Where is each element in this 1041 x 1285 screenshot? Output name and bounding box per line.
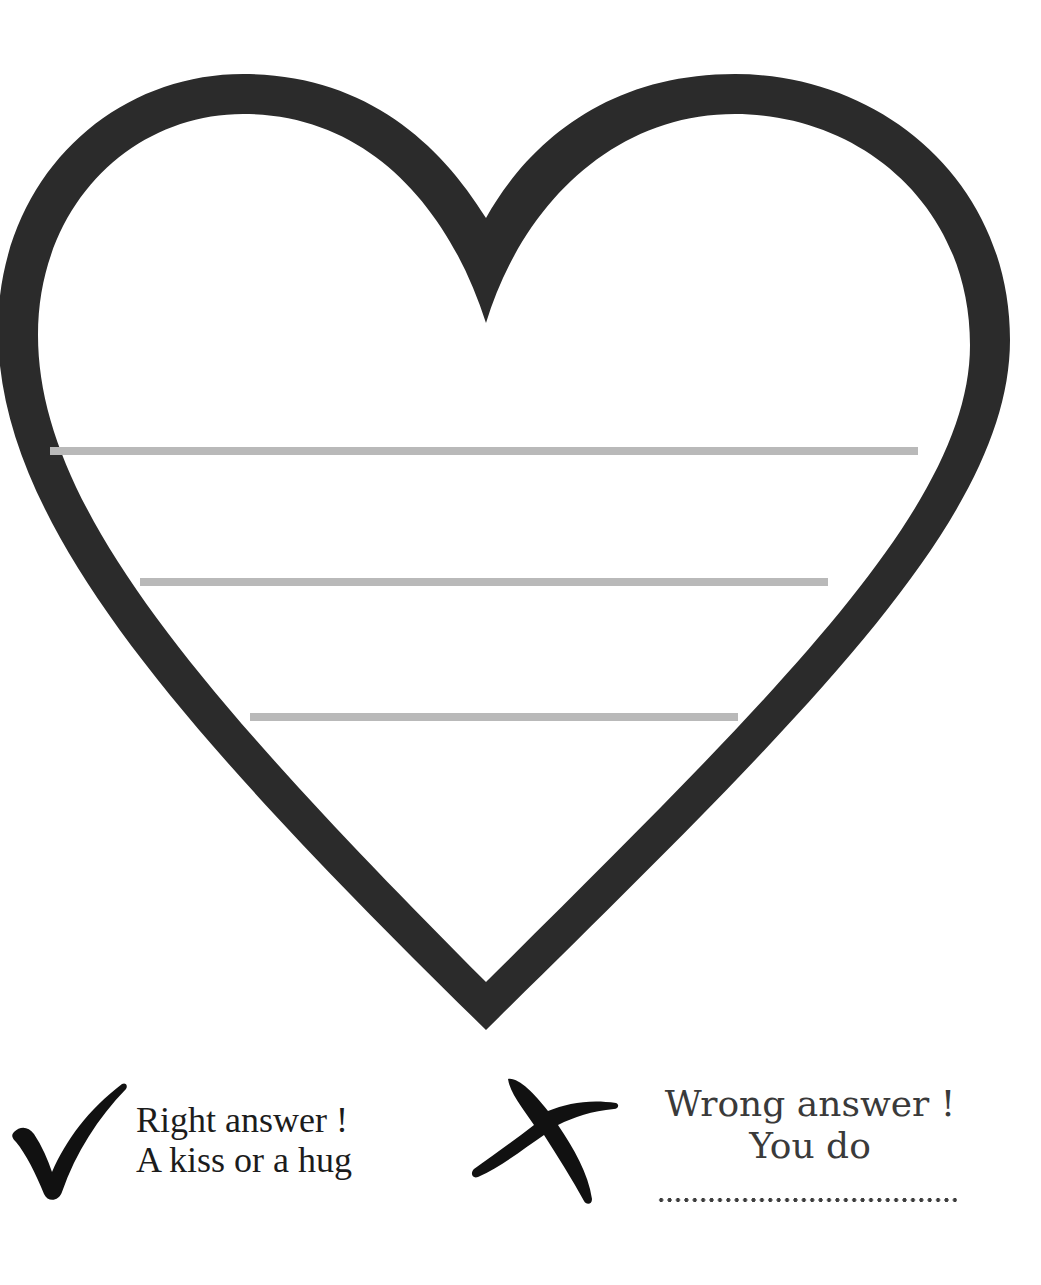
right-answer-text: Right answer ! A kiss or a hug <box>136 1100 352 1180</box>
right-answer-line-2: A kiss or a hug <box>136 1140 352 1180</box>
wrong-answer-line-1: Wrong answer ! <box>650 1083 970 1125</box>
writing-line-3[interactable] <box>250 713 738 721</box>
wrong-answer-text: Wrong answer ! You do <box>650 1083 970 1167</box>
check-mark-icon <box>10 1080 130 1205</box>
writing-line-2[interactable] <box>140 578 828 586</box>
heart-icon <box>0 0 1041 1060</box>
wrong-answer-blank-line[interactable] <box>657 1197 957 1203</box>
legend-wrong-answer: Wrong answer ! You do <box>460 1065 1000 1235</box>
cross-mark-icon <box>470 1073 620 1208</box>
right-answer-line-1: Right answer ! <box>136 1100 352 1140</box>
writing-line-1[interactable] <box>50 447 918 455</box>
wrong-answer-line-2: You do <box>650 1125 970 1167</box>
heart-frame <box>0 0 1041 1060</box>
legend-right-answer: Right answer ! A kiss or a hug <box>0 1070 420 1220</box>
